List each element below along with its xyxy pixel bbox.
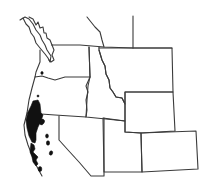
bc-alberta-border <box>87 17 104 47</box>
range-map: Shaded distribution along the coast of n… <box>0 0 207 178</box>
state-idaho <box>86 47 125 121</box>
bc-coastline <box>20 17 54 62</box>
range-outlier-3 <box>46 141 49 145</box>
range-outlier-6 <box>37 95 39 97</box>
range-outlier-7 <box>41 72 43 75</box>
map-svg <box>0 0 207 178</box>
range-outlier-5 <box>38 167 42 172</box>
species-range <box>26 72 53 172</box>
range-south-coast-patches <box>30 143 38 166</box>
state-montana <box>99 48 173 104</box>
state-utah <box>103 118 142 172</box>
state-wyoming <box>125 92 175 133</box>
state-nevada <box>59 116 104 176</box>
range-outlier-4 <box>49 150 54 155</box>
state-colorado <box>141 131 198 172</box>
range-outlier-2 <box>46 134 49 138</box>
